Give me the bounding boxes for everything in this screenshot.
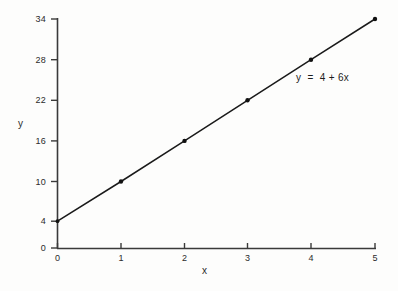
x-tick-label-5: 5 — [372, 253, 377, 263]
plot-canvas — [0, 0, 398, 291]
y-axis-title: y — [18, 118, 23, 129]
y-tick-label-34: 34 — [28, 14, 46, 24]
y-tick-label-10: 10 — [28, 177, 46, 187]
y-tick-label-22: 22 — [28, 95, 46, 105]
data-point — [182, 139, 186, 143]
x-axis-title: x — [202, 265, 207, 276]
x-tick-label-3: 3 — [245, 253, 250, 263]
equation-annotation: y = 4 + 6x — [296, 72, 349, 83]
y-tick-label-0: 0 — [28, 243, 46, 253]
x-tick-label-4: 4 — [308, 253, 313, 263]
data-line-series-1 — [58, 19, 376, 221]
y-tick-label-16: 16 — [28, 136, 46, 146]
data-point — [373, 17, 377, 21]
y-axis-ticks — [51, 19, 57, 248]
x-tick-label-0: 0 — [55, 253, 60, 263]
y-tick-label-4: 4 — [28, 216, 46, 226]
chart-figure: 34 28 22 16 10 4 0 0 1 2 3 4 5 y x y = 4… — [0, 0, 398, 291]
x-tick-label-1: 1 — [118, 253, 123, 263]
x-tick-label-2: 2 — [182, 253, 187, 263]
y-tick-label-28: 28 — [28, 55, 46, 65]
data-point — [119, 179, 123, 183]
data-point — [245, 98, 249, 102]
data-point — [309, 58, 313, 62]
data-point — [56, 219, 60, 223]
